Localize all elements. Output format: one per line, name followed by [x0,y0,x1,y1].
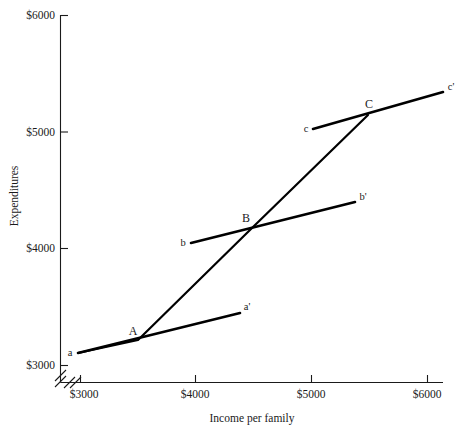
expenditure-income-chart: $6000 $5000 $4000 $3000 $3000 $4000 $500… [0,0,463,433]
y-axis-title: Expenditures [8,165,21,226]
point-label-b: b [180,237,185,248]
point-label-a-prime: a' [244,301,251,312]
short-run-line-c [313,92,443,129]
point-label-c: c [304,123,309,134]
point-label-A: A [129,324,138,338]
point-label-c-prime: c' [448,81,455,92]
x-tick-label-5000: $5000 [297,388,326,400]
y-tick-label-5000: $5000 [26,126,55,138]
y-tick-label-3000: $3000 [26,359,55,371]
x-tick-label-3000: $3000 [70,388,99,400]
x-tick-label-4000: $4000 [181,388,210,400]
point-label-a: a [68,347,73,358]
point-label-C: C [365,97,373,111]
point-label-B: B [242,211,250,225]
x-axis-title: Income per family [210,412,295,425]
point-label-b-prime: b' [359,191,366,202]
y-tick-label-6000: $6000 [26,9,55,21]
chart-canvas: $6000 $5000 $4000 $3000 $3000 $4000 $500… [0,0,463,433]
y-tick-label-4000: $4000 [26,242,55,254]
x-tick-label-6000: $6000 [413,388,442,400]
